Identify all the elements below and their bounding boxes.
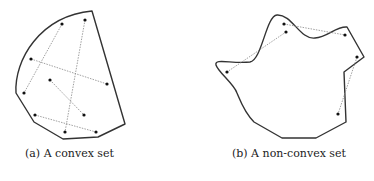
- point: [336, 112, 339, 115]
- dashed-segment: [31, 59, 107, 84]
- point: [33, 113, 36, 116]
- point: [60, 22, 63, 25]
- point: [105, 82, 108, 85]
- caption-non-convex-set: (b) A non-convex set: [232, 147, 346, 160]
- set-outline: [16, 11, 125, 139]
- dashed-segment: [65, 20, 85, 132]
- figure-a: [16, 11, 125, 139]
- figure-b: [216, 15, 364, 138]
- dashed-segment: [50, 80, 84, 115]
- dashed-segment: [338, 57, 357, 114]
- point: [225, 70, 228, 73]
- point: [83, 18, 86, 21]
- point: [355, 55, 358, 58]
- dashed-segment: [227, 32, 286, 72]
- point: [94, 130, 97, 133]
- point: [48, 78, 51, 81]
- set-outline: [216, 15, 364, 138]
- point: [63, 130, 66, 133]
- caption-convex-set: (a) A convex set: [25, 147, 114, 160]
- point: [343, 33, 346, 36]
- point: [29, 57, 32, 60]
- point: [282, 22, 285, 25]
- point: [284, 30, 287, 33]
- point: [82, 113, 85, 116]
- point: [22, 91, 25, 94]
